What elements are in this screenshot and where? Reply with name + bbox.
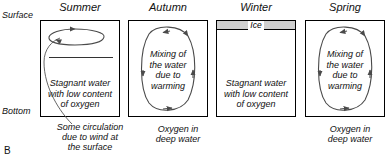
panel-spring: Mixing of the water due to warming <box>305 20 385 117</box>
panel-inner-text-summer: Stagnant water with low content of oxyge… <box>41 78 119 110</box>
inner-text-line: of oxygen <box>217 99 295 110</box>
inner-text-line: due to <box>306 70 384 81</box>
bottom-label: Bottom <box>2 106 31 116</box>
caption-line: deep water <box>310 134 389 144</box>
caption-autumn: Oxygen in deep water <box>138 124 218 144</box>
panel-title-winter: Winter <box>216 1 296 13</box>
panel-inner-text-winter: Stagnant water with low content of oxyge… <box>217 78 295 110</box>
panel-winter: Ice Stagnant water with low content of o… <box>216 20 296 117</box>
panel-title-autumn: Autumn <box>128 1 208 13</box>
inner-text-line: with low content <box>41 89 119 100</box>
panel-autumn: Mixing of the water due to warming <box>128 20 208 117</box>
inner-text-line: Stagnant water <box>217 78 295 89</box>
inner-text-line: Mixing of <box>129 49 207 60</box>
panel-summer: Stagnant water with low content of oxyge… <box>40 20 120 117</box>
caption-spring: Oxygen in deep water <box>310 124 389 144</box>
panel-inner-text-autumn: Mixing of the water due to warming <box>129 49 207 91</box>
inner-text-line: warming <box>129 81 207 92</box>
inner-text-line: the water <box>129 60 207 71</box>
inner-text-line: Mixing of <box>306 49 384 60</box>
thermocline-line-summer <box>49 57 113 58</box>
inner-text-line: of oxygen <box>41 99 119 110</box>
surface-label: Surface <box>2 10 33 20</box>
inner-text-line: the water <box>306 60 384 71</box>
inner-text-line: warming <box>306 81 384 92</box>
inner-text-line: Stagnant water <box>41 78 119 89</box>
caption-line: Oxygen in <box>138 124 218 134</box>
caption-summer: Some circulation due to wind at the surf… <box>50 122 130 152</box>
inner-text-line: with low content <box>217 89 295 100</box>
panel-title-spring: Spring <box>305 1 385 13</box>
caption-line: deep water <box>138 134 218 144</box>
caption-line: due to wind at <box>50 132 130 142</box>
caption-line: Some circulation <box>50 122 130 132</box>
ice-layer-winter: Ice <box>217 21 295 30</box>
figure-letter-label: B <box>4 145 11 156</box>
caption-line: the surface <box>50 142 130 152</box>
panel-title-summer: Summer <box>40 1 120 13</box>
caption-line: Oxygen in <box>310 124 389 134</box>
seasonal-lake-stratification-diagram: Surface Bottom B Summer Stagnant water w… <box>0 0 389 162</box>
inner-text-line: due to <box>129 70 207 81</box>
ice-label: Ice <box>248 21 263 30</box>
panel-inner-text-spring: Mixing of the water due to warming <box>306 49 384 91</box>
